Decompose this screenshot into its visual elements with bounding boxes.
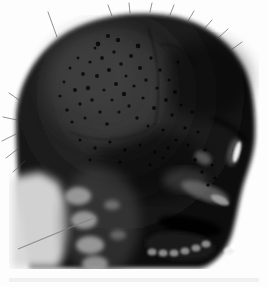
film-right-margin <box>259 0 268 287</box>
film-left-margin <box>0 0 9 287</box>
chin-highlight-core <box>231 245 235 249</box>
cranium-light-core <box>55 40 135 110</box>
radiograph-canvas <box>0 0 268 287</box>
neck-soft-tissue <box>12 172 68 268</box>
film-strip <box>0 278 268 282</box>
skull-xray-image <box>0 0 268 287</box>
parietal-shadow <box>160 40 250 120</box>
